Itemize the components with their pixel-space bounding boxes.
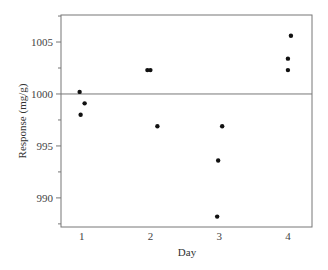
x-tick-label: 2 [148,230,154,242]
data-point [155,124,159,128]
data-point [286,68,290,72]
y-axis: 99099510001005 [31,16,61,224]
data-points [77,34,293,219]
data-point [286,56,290,60]
data-point [216,158,220,162]
data-point [148,68,152,72]
x-axis: 1234 [79,230,291,242]
data-point [215,214,219,218]
y-tick-label: 1005 [31,36,54,48]
y-tick-label: 1000 [31,88,54,100]
x-axis-title: Day [178,246,197,258]
data-point [220,124,224,128]
y-axis-title: Response (mg/g) [16,83,29,158]
x-tick-label: 4 [285,230,291,242]
y-tick-label: 990 [37,192,54,204]
data-point [289,34,293,38]
data-point [77,90,81,94]
x-tick-label: 3 [216,230,222,242]
y-tick-label: 995 [37,140,54,152]
data-point [82,101,86,105]
data-point [78,113,82,117]
x-tick-label: 1 [79,230,85,242]
scatter-chart: 99099510001005 1234 Day Response (mg/g) [0,0,328,270]
plot-area [61,15,312,227]
